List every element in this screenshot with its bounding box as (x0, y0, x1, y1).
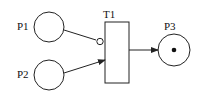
arc-p2-t1 (64, 60, 105, 73)
place-p3: P3 (158, 20, 190, 66)
place-p2: P2 (17, 60, 64, 90)
inhibitor-circle-icon (97, 38, 103, 44)
place-p2-label: P2 (17, 68, 29, 80)
transition-t1-label: T1 (103, 8, 115, 20)
place-p1: P1 (17, 12, 64, 42)
arc-p1-t1-inhibitor (64, 30, 103, 45)
place-p3-label: P3 (164, 20, 176, 32)
transition-t1: T1 (103, 8, 129, 83)
place-p1-label: P1 (17, 20, 29, 32)
token-dot-icon (172, 48, 177, 53)
petri-net-diagram: P1 P2 T1 P3 (0, 0, 203, 99)
